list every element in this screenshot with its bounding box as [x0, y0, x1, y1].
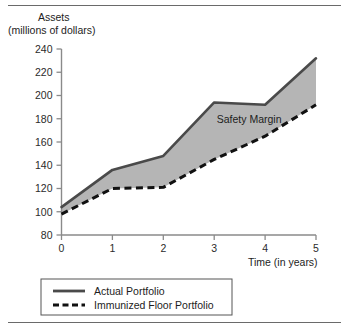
y-tick-label: 180 [35, 113, 53, 125]
x-tick-label: 5 [313, 242, 319, 254]
safety-margin-annotation: Safety Margin [217, 113, 282, 125]
x-tick-label: 4 [262, 242, 268, 254]
x-tick-label: 1 [109, 242, 115, 254]
y-tick-label: 160 [35, 136, 53, 148]
y-tick-label: 140 [35, 159, 53, 171]
y-axis-title-line2: (millions of dollars) [8, 24, 96, 36]
legend-label-actual-portfolio: Actual Portfolio [94, 285, 165, 297]
x-tick-label: 3 [211, 242, 217, 254]
chart-figure: Assets (millions of dollars) 80100120140… [0, 0, 349, 331]
y-tick-label: 120 [35, 182, 53, 194]
y-axis-title-line1: Assets [38, 11, 70, 23]
y-tick-label: 80 [41, 229, 53, 241]
x-tick-label: 2 [160, 242, 166, 254]
y-tick-label: 220 [35, 66, 53, 78]
x-tick-label: 0 [59, 242, 65, 254]
safety-margin-band [62, 58, 317, 214]
x-axis-title: Time (in years) [248, 256, 318, 268]
assets-safety-margin-chart: Assets (millions of dollars) 80100120140… [0, 0, 349, 331]
y-tick-label: 240 [35, 43, 53, 55]
y-axis-ticks: 80100120140160180200220240 [35, 43, 62, 241]
y-tick-label: 200 [35, 89, 53, 101]
chart-legend: Actual Portfolio Immunized Floor Portfol… [41, 279, 232, 315]
x-axis-ticks: 012345 [59, 235, 320, 254]
y-tick-label: 100 [35, 206, 53, 218]
legend-label-immunized-floor-portfolio: Immunized Floor Portfolio [94, 299, 214, 311]
